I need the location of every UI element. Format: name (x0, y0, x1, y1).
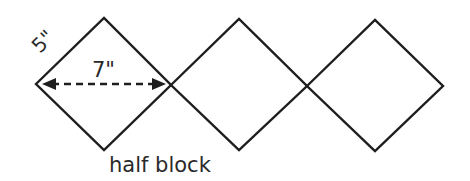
diagonal-width-label: 7" (92, 58, 115, 82)
arrowhead-left-icon (42, 78, 56, 90)
side-length-label: 5" (27, 25, 59, 57)
half-block-diamond-2 (171, 19, 307, 150)
quilt-diagram: 7" 5" half block (0, 0, 470, 181)
half-block-diamond-3 (307, 20, 443, 151)
half-block-caption: half block (109, 153, 212, 177)
arrowhead-right-icon (152, 78, 166, 90)
